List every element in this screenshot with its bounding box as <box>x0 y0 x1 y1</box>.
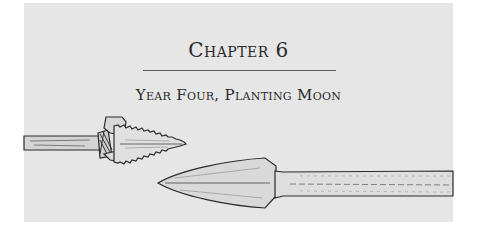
spears-illustration <box>0 0 477 237</box>
serrated-spear-icon <box>24 117 186 164</box>
leaf-spear-icon <box>158 158 453 208</box>
